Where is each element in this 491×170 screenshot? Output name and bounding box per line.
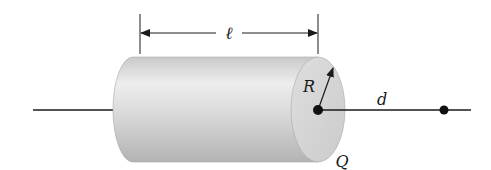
- charge-label: Q: [335, 152, 348, 170]
- field-point: [440, 106, 449, 115]
- length-label: ℓ: [225, 23, 232, 43]
- distance-label: d: [377, 90, 387, 109]
- center-point: [313, 105, 323, 115]
- cylinder-diagram: ℓ R d Q: [0, 0, 491, 170]
- radius-label: R: [302, 77, 315, 96]
- cylinder-body: [113, 57, 318, 162]
